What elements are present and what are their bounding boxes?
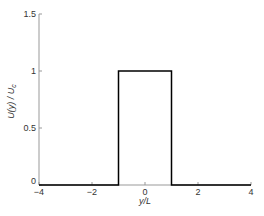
- axes: [39, 14, 251, 185]
- y-axis-label: U(y) / Uc: [6, 84, 17, 119]
- x-tick-label: 4: [248, 187, 253, 197]
- x-tick-label: 2: [195, 187, 200, 197]
- x-tick-label: −2: [87, 187, 97, 197]
- chart: 00.511.5 −4−2024 y/L U(y) / Uc: [0, 0, 264, 216]
- y-tick-label: 1: [31, 66, 36, 76]
- x-axis-label: y/L: [138, 196, 151, 206]
- series-line: [39, 71, 251, 185]
- y-axis-label-main: U(y) / U: [6, 87, 16, 118]
- y-tick-label: 1.5: [23, 9, 36, 19]
- x-tick-label: −4: [34, 187, 44, 197]
- data-series: [39, 71, 251, 185]
- y-axis-label-subscript: c: [10, 84, 17, 88]
- y-tick-label: 0: [31, 176, 36, 186]
- y-tick-label: 0.5: [23, 123, 36, 133]
